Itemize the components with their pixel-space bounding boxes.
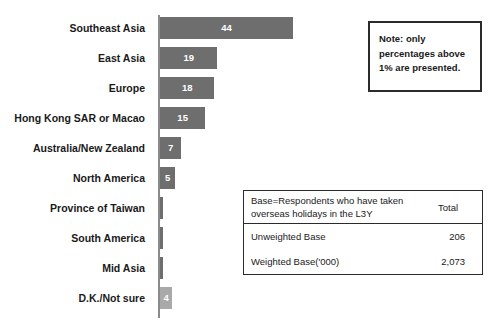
bar-value-label: 5 — [165, 173, 170, 183]
table-header-row: Base=Respondents who have taken overseas… — [244, 191, 482, 224]
bar-value-label: 7 — [168, 143, 173, 153]
category-label: Mid Asia — [0, 253, 152, 283]
note-line-1: Note: only — [379, 32, 472, 47]
category-label: Europe — [0, 73, 152, 103]
bar: 5 — [160, 167, 175, 189]
category-label: Hong Kong SAR or Macao — [0, 103, 152, 133]
bar — [160, 257, 163, 279]
note-callout-box: Note: only percentages above 1% are pres… — [368, 21, 482, 92]
category-label: South America — [0, 223, 152, 253]
table-header-label-line-2: overseas holidays in the L3Y — [251, 207, 414, 220]
bar-row: Australia/New Zealand7 — [0, 133, 300, 163]
bar-row: Southeast Asia44 — [0, 13, 300, 43]
table-row: Weighted Base('000)2,073 — [244, 249, 482, 274]
bar-row: Hong Kong SAR or Macao15 — [0, 103, 300, 133]
table-row-value: 206 — [414, 231, 482, 242]
table-row: Unweighted Base206 — [244, 224, 482, 249]
bar: 7 — [160, 137, 181, 159]
bar: 4 — [160, 287, 172, 309]
category-label: Province of Taiwan — [0, 193, 152, 223]
category-label: D.K./Not sure — [0, 283, 152, 313]
bar-row: North America5 — [0, 163, 300, 193]
base-summary-table: Base=Respondents who have taken overseas… — [243, 190, 483, 275]
bar — [160, 197, 163, 219]
bar: 18 — [160, 77, 214, 99]
bar-row: D.K./Not sure4 — [0, 283, 300, 313]
category-label: Australia/New Zealand — [0, 133, 152, 163]
category-label: North America — [0, 163, 152, 193]
bar-value-label: 4 — [163, 293, 168, 303]
note-line-2: percentages above — [379, 47, 472, 62]
bar-row: East Asia19 — [0, 43, 300, 73]
table-row-label: Unweighted Base — [244, 230, 414, 243]
bar: 15 — [160, 107, 205, 129]
table-header-total: Total — [414, 202, 482, 213]
note-line-3: 1% are presented. — [379, 61, 472, 76]
horizontal-bar-chart: Southeast Asia44East Asia19Europe18Hong … — [0, 0, 492, 331]
bar: 44 — [160, 17, 293, 39]
table-row-value: 2,073 — [414, 256, 482, 267]
bar-value-label: 18 — [182, 83, 193, 93]
bar — [160, 227, 163, 249]
table-body: Unweighted Base206Weighted Base('000)2,0… — [244, 224, 482, 274]
bar-value-label: 19 — [183, 53, 194, 63]
table-row-label: Weighted Base('000) — [244, 255, 414, 268]
table-header-label: Base=Respondents who have taken overseas… — [244, 194, 414, 220]
bar-row: Europe18 — [0, 73, 300, 103]
bar: 19 — [160, 47, 217, 69]
bar-value-label: 15 — [177, 113, 188, 123]
category-label: East Asia — [0, 43, 152, 73]
table-header-label-line-1: Base=Respondents who have taken — [251, 194, 414, 207]
bar-value-label: 44 — [221, 23, 232, 33]
category-label: Southeast Asia — [0, 13, 152, 43]
